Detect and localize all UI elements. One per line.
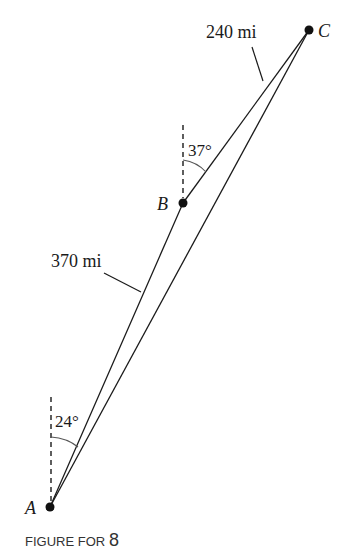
navigation-diagram: A B C 240 mi 370 mi 24° 37°	[0, 0, 349, 554]
distance-label-bc: 240 mi	[206, 22, 257, 42]
distance-label-ab: 370 mi	[51, 251, 102, 271]
point-b-label: B	[157, 194, 168, 214]
caption-prefix: FIGURE FOR	[25, 534, 105, 549]
figure-caption: FIGURE FOR 8	[25, 530, 119, 551]
segment-ab	[50, 203, 183, 507]
point-c-label: C	[318, 21, 331, 41]
angle-label-b: 37°	[188, 141, 212, 160]
angle-label-a: 24°	[55, 412, 79, 431]
leader-line-bc	[252, 47, 263, 81]
point-c-marker	[305, 26, 314, 35]
caption-number: 8	[109, 530, 119, 550]
segment-bc	[183, 30, 309, 203]
point-a-marker	[46, 503, 55, 512]
leader-line-ab	[104, 273, 141, 292]
point-b-marker	[179, 199, 188, 208]
angle-arc-b	[183, 160, 206, 172]
point-a-label: A	[24, 498, 37, 518]
angle-arc-a	[51, 437, 78, 447]
